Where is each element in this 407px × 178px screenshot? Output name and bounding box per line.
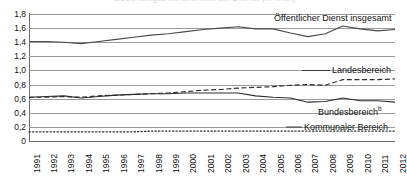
series-lines xyxy=(0,0,407,178)
series-label-gesamt: Öffentlicher Dienst insgesamt xyxy=(274,14,391,23)
series-label-bundes-text: Bundesbereich xyxy=(318,107,378,117)
series-label-bundes-footnote: b xyxy=(378,105,382,112)
series-label-kommunal: Kommunaler Bereich xyxy=(304,123,388,132)
series-line xyxy=(29,26,395,44)
series-label-landes: Landesbereich xyxy=(332,66,391,75)
series-line xyxy=(29,93,395,102)
series-label-bundes: Bundesbereichb xyxy=(318,104,382,117)
line-chart: Beschäftigte im öffentlichen Dienst (in … xyxy=(0,0,407,178)
series-line xyxy=(29,79,395,97)
